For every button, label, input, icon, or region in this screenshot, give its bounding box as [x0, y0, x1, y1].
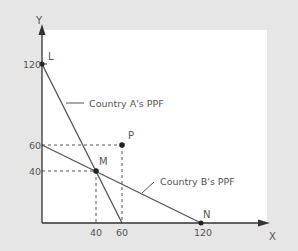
- point-label-l: L: [48, 51, 54, 62]
- tick-label-y-40: 40: [29, 166, 41, 177]
- point-label-p: P: [128, 130, 134, 141]
- point-m: [93, 168, 99, 174]
- ppf-a-label: Country A's PPF: [89, 98, 164, 109]
- plot-area: [42, 30, 267, 223]
- ppf-b-label: Country B's PPF: [160, 176, 235, 187]
- x-axis-label: X: [269, 231, 276, 242]
- point-label-n: N: [203, 209, 210, 220]
- tick-label-y-60: 60: [29, 140, 41, 151]
- point-label-m: M: [99, 156, 108, 167]
- point-p: [119, 142, 125, 148]
- tick-label-x-40: 40: [90, 227, 102, 238]
- tick-label-y-120: 120: [23, 59, 41, 70]
- ppf-chart: Y X 120 60 40 40 60 120 L M P N Country …: [0, 0, 298, 251]
- point-n: [199, 221, 204, 226]
- y-axis-label: Y: [35, 15, 43, 26]
- tick-label-x-60: 60: [116, 227, 128, 238]
- tick-label-x-120: 120: [194, 227, 212, 238]
